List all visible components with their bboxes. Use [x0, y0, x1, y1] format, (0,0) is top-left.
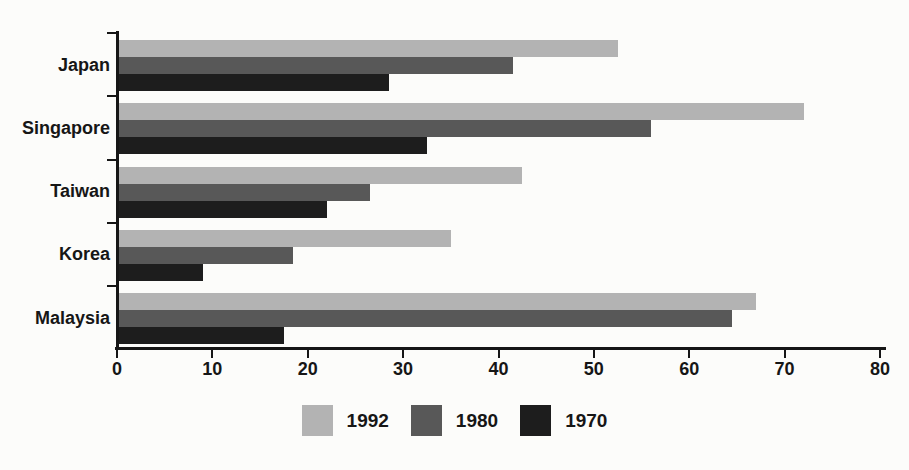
x-tick [211, 350, 213, 358]
x-tick-label: 40 [477, 359, 521, 380]
bar-1980-japan [119, 57, 513, 74]
bar-1970-singapore [119, 137, 427, 154]
x-tick [879, 350, 881, 358]
legend: 199219801970 [0, 405, 909, 436]
x-tick [688, 350, 690, 358]
x-axis [115, 347, 886, 350]
bar-1970-japan [119, 74, 389, 91]
category-label: Korea [0, 244, 110, 265]
x-tick-label: 20 [286, 359, 330, 380]
legend-label-1992: 1992 [347, 410, 389, 432]
bar-1970-taiwan [119, 201, 327, 218]
legend-item-1980: 1980 [411, 405, 498, 436]
x-tick [116, 350, 118, 358]
legend-swatch-1970 [520, 405, 551, 436]
chart-canvas: 01020304050607080JapanSingaporeTaiwanKor… [0, 0, 909, 470]
category-label: Singapore [0, 118, 110, 139]
category-label: Japan [0, 55, 110, 76]
bar-1980-singapore [119, 120, 652, 137]
y-tick [107, 95, 116, 97]
x-tick [307, 350, 309, 358]
y-tick [107, 32, 116, 34]
bar-1992-taiwan [119, 167, 523, 184]
x-tick [402, 350, 404, 358]
x-tick [784, 350, 786, 358]
bar-1970-malaysia [119, 327, 284, 344]
legend-item-1992: 1992 [302, 405, 389, 436]
x-tick-label: 0 [95, 359, 139, 380]
x-tick-label: 50 [572, 359, 616, 380]
legend-swatch-1980 [411, 405, 442, 436]
y-tick [107, 222, 116, 224]
legend-swatch-1992 [302, 405, 333, 436]
x-tick-label: 80 [858, 359, 902, 380]
bar-1992-singapore [119, 103, 804, 120]
plot-area: 01020304050607080JapanSingaporeTaiwanKor… [0, 0, 909, 400]
bar-1992-korea [119, 230, 451, 247]
category-label: Taiwan [0, 181, 110, 202]
x-tick-label: 30 [381, 359, 425, 380]
legend-item-1970: 1970 [520, 405, 607, 436]
category-label: Malaysia [0, 308, 110, 329]
x-tick [498, 350, 500, 358]
bar-1980-korea [119, 247, 294, 264]
x-tick-label: 70 [763, 359, 807, 380]
x-tick [593, 350, 595, 358]
legend-label-1980: 1980 [456, 410, 498, 432]
bar-1980-malaysia [119, 310, 733, 327]
bar-1970-korea [119, 264, 203, 281]
bar-1980-taiwan [119, 184, 370, 201]
x-tick-label: 10 [190, 359, 234, 380]
bar-1992-malaysia [119, 293, 757, 310]
y-tick [107, 159, 116, 161]
legend-label-1970: 1970 [565, 410, 607, 432]
y-tick [107, 285, 116, 287]
bar-1992-japan [119, 40, 618, 57]
x-tick-label: 60 [667, 359, 711, 380]
